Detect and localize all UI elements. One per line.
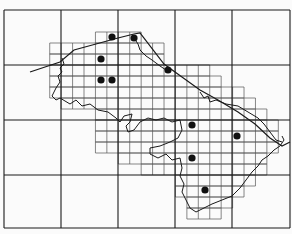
record-dot	[188, 121, 195, 128]
record-dot	[188, 154, 195, 161]
record-dot	[130, 34, 137, 41]
record-dot	[97, 76, 104, 83]
record-dot	[201, 186, 208, 193]
record-dot	[164, 66, 171, 73]
distribution-map	[0, 0, 292, 234]
record-dot	[97, 55, 104, 62]
record-dot	[108, 33, 115, 40]
record-dot	[233, 132, 240, 139]
coastline	[30, 33, 290, 146]
small-grid	[50, 32, 279, 219]
record-dot	[108, 76, 115, 83]
map-canvas	[0, 0, 292, 234]
record-dots	[97, 33, 240, 193]
